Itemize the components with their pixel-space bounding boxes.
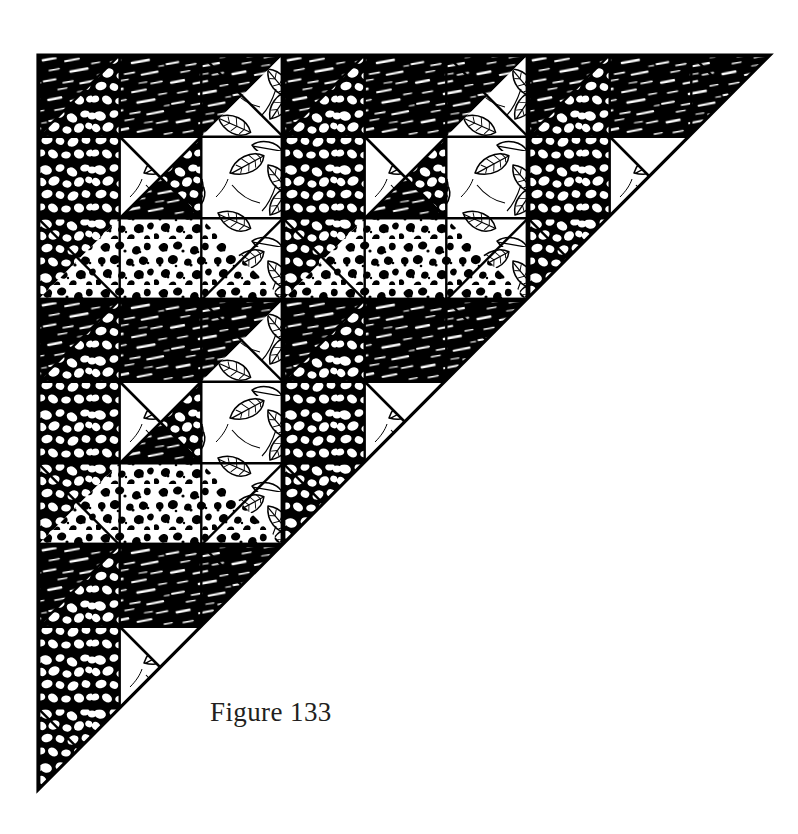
figure-caption: Figure 133 bbox=[210, 697, 332, 728]
figure-page: Figure 133 bbox=[0, 0, 798, 834]
quilt-block bbox=[38, 300, 283, 545]
quilt-diagram bbox=[0, 0, 798, 834]
quilt-block bbox=[38, 55, 283, 300]
quilt-block bbox=[283, 55, 528, 300]
